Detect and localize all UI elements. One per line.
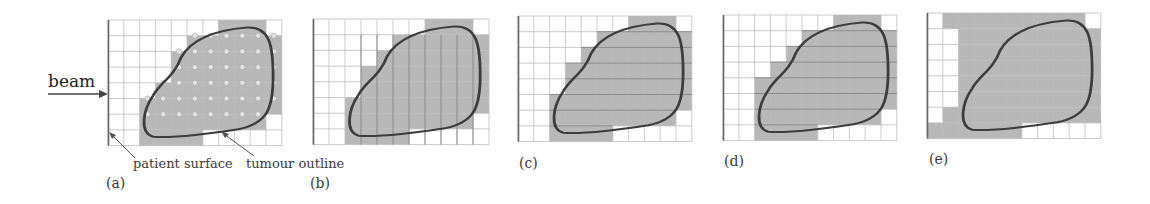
panel-c (518, 16, 694, 144)
dose-grid-c (518, 16, 694, 144)
panel-label-c: (c) (519, 155, 538, 171)
dose-grid-b (313, 19, 491, 147)
panel-e (927, 13, 1103, 141)
panel-label-d: (d) (724, 153, 744, 169)
panel-b (313, 19, 491, 147)
dose-grid-e (927, 13, 1103, 141)
dose-grid-d (723, 15, 899, 143)
tumour-outline-label: tumour outline (246, 156, 344, 171)
panel-label-e: (e) (929, 151, 948, 167)
tumour-outline-pointer-icon (218, 128, 258, 160)
patient-surface-pointer-icon (105, 130, 145, 162)
beam-arrow-icon (46, 88, 110, 100)
panel-label-a: (a) (106, 175, 125, 191)
panel-d (723, 15, 899, 143)
panel-label-b: (b) (310, 175, 330, 191)
